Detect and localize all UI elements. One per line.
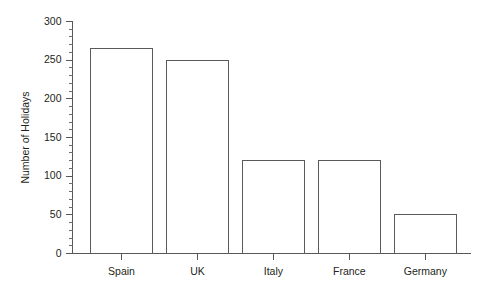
bar-italy bbox=[242, 161, 304, 254]
x-axis-tick-label: Germany bbox=[404, 265, 448, 277]
chart-canvas: 050100150200250300SpainUKItalyFranceGerm… bbox=[0, 0, 487, 295]
x-axis-tick-label: UK bbox=[190, 265, 205, 277]
x-axis-tick-label: Italy bbox=[264, 265, 284, 277]
y-axis-tick-label: 100 bbox=[44, 169, 62, 181]
y-axis-tick-label: 300 bbox=[44, 15, 62, 27]
y-axis-title: Number of Holidays bbox=[19, 91, 31, 183]
y-axis-tick-label: 0 bbox=[56, 247, 62, 259]
x-axis-tick-label: France bbox=[333, 265, 366, 277]
bar-spain bbox=[91, 49, 153, 254]
x-axis-tick-label: Spain bbox=[108, 265, 135, 277]
bar-chart: 050100150200250300SpainUKItalyFranceGerm… bbox=[0, 0, 487, 295]
bar-germany bbox=[394, 215, 456, 254]
y-axis-tick-label: 50 bbox=[50, 208, 62, 220]
bar-uk bbox=[166, 60, 228, 253]
y-axis-tick-label: 200 bbox=[44, 92, 62, 104]
y-axis-tick-label: 250 bbox=[44, 53, 62, 65]
bar-france bbox=[318, 161, 380, 254]
y-axis-tick-label: 150 bbox=[44, 131, 62, 143]
